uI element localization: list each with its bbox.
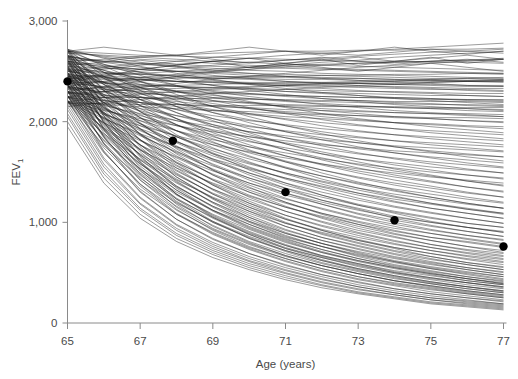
y-axis-title: FEV1 [10, 158, 25, 185]
series-line [68, 107, 504, 305]
y-tick-label: 1,000 [29, 216, 58, 228]
y-axis-ticks [63, 21, 68, 323]
x-tick-label: 71 [279, 335, 292, 347]
series-line [68, 47, 504, 55]
y-tick-label: 0 [51, 317, 57, 329]
series-line [68, 57, 504, 139]
x-tick-label: 65 [61, 335, 74, 347]
x-tick-label: 77 [497, 335, 510, 347]
x-tick-label: 75 [424, 335, 437, 347]
marker-dot [63, 77, 71, 85]
marker-dot [390, 216, 398, 224]
plot-canvas: 01,0002,0003,00065676971737577Age (years… [0, 0, 518, 379]
series-line [68, 83, 504, 100]
marker-dot [169, 137, 177, 145]
marker-dot [281, 188, 289, 196]
x-axis-ticks [68, 323, 504, 329]
x-tick-label: 73 [352, 335, 365, 347]
x-axis-title: Age (years) [256, 358, 316, 370]
y-tick-label: 3,000 [29, 15, 58, 27]
x-tick-label: 69 [206, 335, 219, 347]
series-lines-layer [68, 43, 504, 310]
y-tick-label: 2,000 [29, 116, 58, 128]
x-tick-label: 67 [134, 335, 147, 347]
series-line [68, 53, 504, 70]
fev1-spaghetti-plot-figure: 01,0002,0003,00065676971737577Age (years… [0, 0, 518, 379]
marker-dot [499, 242, 507, 250]
